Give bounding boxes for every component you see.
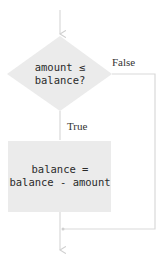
process-text-line1: balance = <box>32 163 89 175</box>
decision-text-line1: amount ≤ <box>35 61 86 73</box>
flowchart: amount ≤ balance? False True balance = b… <box>0 0 161 260</box>
process-text-line2: balance - amount <box>9 176 110 188</box>
true-label: True <box>67 120 87 132</box>
false-label: False <box>112 56 135 68</box>
decision-text-line2: balance? <box>35 74 86 86</box>
merge-point <box>62 228 65 231</box>
